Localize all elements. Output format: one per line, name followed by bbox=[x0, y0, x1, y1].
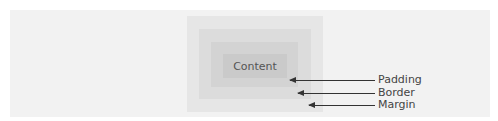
padding-arrow-icon bbox=[290, 80, 375, 81]
content-label: Content bbox=[233, 60, 277, 73]
padding-label: Padding bbox=[378, 74, 422, 86]
margin-label: Margin bbox=[378, 99, 416, 111]
content-box: Content bbox=[223, 54, 287, 78]
border-arrow-icon bbox=[298, 93, 375, 94]
margin-arrow-icon bbox=[309, 105, 375, 106]
